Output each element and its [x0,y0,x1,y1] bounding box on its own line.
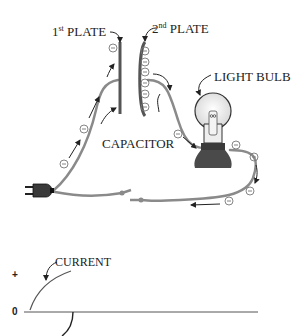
first-plate-label: 1st PLATE [52,25,106,38]
electron-icon [141,79,149,87]
second-plate-label: 2nd PLATE [152,22,209,35]
electron-icon [174,130,182,138]
current-curve-negative [62,312,73,336]
switch [120,190,144,203]
arrow-icon [191,204,220,205]
y-axis-plus-label: + [12,270,18,280]
electron-icon [246,187,254,195]
current-graph [24,271,258,336]
arrow-icon [101,108,116,124]
electron-icon [60,160,68,168]
wire-plug-to-switch [55,192,122,196]
diagram-canvas [0,0,301,336]
plug-icon [25,184,54,197]
capacitor-label: CAPACITOR [102,137,174,150]
current-label: CURRENT [55,256,111,268]
electron-icon [141,68,149,76]
capacitor-diagram: 1st PLATE 2nd PLATE LIGHT BULB CAPACITOR… [0,0,301,336]
electron-icon [80,125,88,133]
electron-icon [225,197,233,205]
arrow-icon [183,137,196,148]
electron-icon [141,58,149,66]
electron-icon [232,141,240,149]
electron-icon [141,90,149,98]
current-curve [30,271,71,310]
light-bulb-label: LIGHT BULB [214,70,291,83]
y-axis-zero-label: 0 [12,307,18,317]
light-bulb-icon [194,93,231,168]
electron-icon [109,44,117,52]
arrow-icon [107,64,114,77]
arrow-icon [69,140,80,158]
label-leaders [46,28,211,280]
